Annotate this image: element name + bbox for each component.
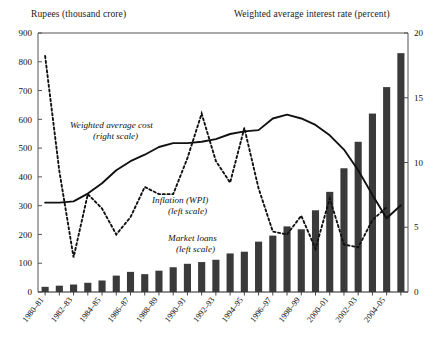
x-tick-label-1988-89: 1988–89: [135, 296, 160, 324]
annotation-weighted-average-cost: Weighted average cost (right scale): [70, 120, 153, 141]
x-axis-labels: 1980–811982–831984–851986–871988–891990–…: [21, 296, 388, 324]
bar-market-loans: [56, 286, 63, 292]
left-tick-100: 100: [19, 258, 33, 268]
annotation-loans-line2: (left scale): [176, 244, 215, 254]
bar-market-loans: [170, 267, 177, 292]
left-tick-500: 500: [19, 143, 33, 153]
annotation-cost-line2: (right scale): [93, 131, 138, 141]
bar-market-loans: [212, 260, 219, 292]
bar-market-loans: [141, 274, 148, 292]
x-tick-label-1982-83: 1982–83: [49, 296, 74, 324]
chart-plot-area: 0100200300400500600700800900 05101520 19…: [0, 0, 435, 339]
bar-market-loans: [355, 142, 362, 292]
bar-market-loans: [113, 276, 120, 292]
x-tick-label-1986-87: 1986–87: [106, 296, 131, 324]
x-tick-label-1994-95: 1994–95: [220, 296, 245, 324]
left-tick-400: 400: [19, 172, 33, 182]
bar-market-loans: [84, 283, 91, 292]
x-tick-label-1996-97: 1996–97: [248, 296, 273, 324]
x-tick-label-1998-99: 1998–99: [277, 296, 302, 324]
bar-market-loans: [397, 53, 404, 292]
annotation-inflation: Inflation (WPI) (left scale): [151, 195, 208, 216]
bar-market-loans: [227, 253, 234, 292]
bar-market-loans: [369, 114, 376, 292]
x-tick-label-2000-01: 2000–01: [305, 296, 330, 324]
annotation-market-loans: Market loans (left scale): [167, 233, 217, 254]
left-tick-300: 300: [19, 201, 33, 211]
bar-market-loans: [340, 168, 347, 292]
x-tick-label-2004-05: 2004–05: [362, 296, 387, 324]
right-axis-ticks: 05101520: [404, 28, 424, 297]
bar-market-loans: [184, 264, 191, 292]
line-series-inflation: [45, 56, 387, 257]
left-tick-600: 600: [19, 115, 33, 125]
left-tick-900: 900: [19, 28, 33, 38]
right-tick-5: 5: [414, 222, 419, 232]
bar-market-loans: [98, 280, 105, 292]
bar-market-loans: [42, 287, 49, 292]
right-tick-10: 10: [414, 158, 424, 168]
bar-market-loans: [155, 271, 162, 292]
x-tick-label-1992-93: 1992–93: [191, 296, 216, 324]
bar-market-loans: [298, 229, 305, 292]
inflation-polyline: [45, 56, 387, 257]
left-tick-800: 800: [19, 57, 33, 67]
x-tick-label-1980-81: 1980–81: [21, 296, 46, 324]
bar-market-loans: [70, 285, 77, 292]
annotation-cost-line1: Weighted average cost: [70, 120, 153, 130]
annotation-inflation-line1: Inflation (WPI): [151, 195, 208, 205]
right-tick-15: 15: [414, 93, 424, 103]
bar-market-loans: [283, 226, 290, 292]
bar-market-loans: [198, 262, 205, 292]
x-tick-label-2002-03: 2002–03: [334, 296, 359, 324]
left-tick-200: 200: [19, 230, 33, 240]
bar-market-loans: [383, 87, 390, 292]
right-tick-20: 20: [414, 28, 424, 38]
annotation-inflation-line2: (left scale): [168, 206, 207, 216]
left-tick-0: 0: [28, 287, 33, 297]
annotation-loans-line1: Market loans: [167, 233, 217, 243]
right-tick-0: 0: [414, 287, 419, 297]
x-tick-label-1990-91: 1990–91: [163, 296, 188, 324]
bar-market-loans: [269, 236, 276, 292]
left-tick-700: 700: [19, 86, 33, 96]
x-tick-label-1984-85: 1984–85: [78, 296, 103, 324]
bar-market-loans: [127, 272, 134, 292]
bar-market-loans: [241, 252, 248, 292]
chart-figure: Rupees (thousand crore) Weighted average…: [0, 0, 435, 339]
bar-market-loans: [255, 242, 262, 292]
